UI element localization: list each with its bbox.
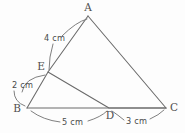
vertex-label-e: E [37, 60, 45, 72]
segment-ec [48, 72, 166, 108]
vertex-label-a: A [83, 1, 92, 13]
measure-label-dc: 3 cm [126, 116, 147, 126]
vertex-label-b: B [13, 102, 21, 114]
segment-ab [27, 16, 88, 108]
leader-5cm-to-d [88, 111, 107, 121]
measure-label-bd: 5 cm [62, 117, 83, 127]
vertex-label-c: C [170, 101, 178, 113]
measure-label-ae: 4 cm [44, 33, 65, 43]
measure-label-eb: 2 cm [12, 80, 33, 90]
leader-5cm-to-b [31, 111, 60, 122]
vertex-labels: A B C D E [13, 1, 178, 121]
segment-ac [88, 16, 166, 108]
figure-strokes [27, 16, 166, 108]
vertex-label-d: D [106, 109, 114, 121]
geometry-figure: A B C D E 4 cm 2 cm 5 cm 3 cm [0, 0, 185, 133]
measurement-labels: 4 cm 2 cm 5 cm 3 cm [12, 33, 147, 127]
leader-3cm-to-c [150, 110, 164, 119]
leader-4cm-to-a [62, 19, 87, 36]
geometry-diagram-canvas: A B C D E 4 cm 2 cm 5 cm 3 cm [0, 0, 185, 133]
